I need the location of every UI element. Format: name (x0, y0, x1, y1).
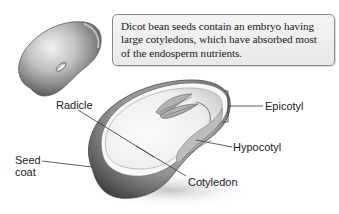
caption-callout: Dicot bean seeds contain an embryo havin… (112, 14, 335, 66)
label-seed-coat: Seed coat (15, 154, 47, 178)
label-hypocotyl: Hypocotyl (233, 141, 281, 153)
seed-coat-leader-line (42, 161, 92, 167)
label-cotyledon: Cotyledon (188, 176, 238, 188)
label-radicle: Radicle (56, 99, 93, 111)
whole-bean-seed-icon (19, 22, 101, 96)
caption-text: Dicot bean seeds contain an embryo havin… (121, 20, 317, 59)
bean-seed-diagram: Dicot bean seeds contain an embryo havin… (0, 0, 339, 214)
bean-cross-section-icon (85, 80, 255, 208)
label-epicotyl: Epicotyl (265, 100, 304, 112)
